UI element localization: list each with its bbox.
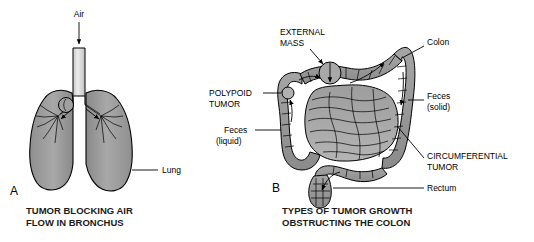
label-external-mass-line2: MASS [280, 38, 304, 48]
label-polypoid-tumor-line1: POLYPOID [209, 88, 252, 98]
panel-letter-a: A [10, 184, 18, 198]
label-external-mass-line1: EXTERNAL [280, 27, 325, 37]
caption-b-line2: OBSTRUCTING THE COLON [282, 217, 410, 228]
label-rectum: Rectum [427, 183, 456, 193]
polypoid-tumor-mass [282, 87, 294, 99]
label-polypoid-tumor-line2: TUMOR [209, 99, 240, 109]
medical-illustration-figure: Air [0, 0, 534, 242]
label-feces-solid-line2: (solid) [427, 102, 450, 112]
label-feces-solid-line1: Feces [427, 91, 450, 101]
label-circumferential-tumor-line1: CIRCUMFERENTIAL [427, 151, 508, 161]
label-lung: Lung [162, 165, 181, 175]
caption-a-line2: FLOW IN BRONCHUS [26, 217, 124, 228]
caption-a-line1: TUMOR BLOCKING AIR [26, 205, 133, 216]
label-feces-liquid-line2: (liquid) [216, 136, 242, 146]
label-colon: Colon [427, 37, 449, 47]
label-circumferential-tumor-line2: TUMOR [427, 162, 458, 172]
panel-letter-b: B [272, 181, 280, 195]
label-air: Air [74, 9, 85, 19]
label-feces-liquid-line1: Feces [224, 125, 247, 135]
trachea [73, 48, 85, 96]
caption-b-line1: TYPES OF TUMOR GROWTH [282, 205, 412, 216]
